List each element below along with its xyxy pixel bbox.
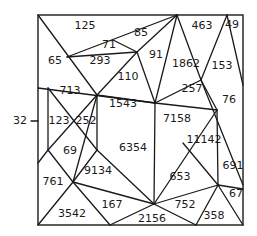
edge-line (154, 103, 155, 204)
region-label-7158: 7158 (163, 112, 191, 125)
edge-line (113, 40, 137, 52)
triangulation-diagram: 32 1257185652939111018624634915325776713… (0, 0, 257, 236)
region-label-49: 49 (225, 18, 239, 31)
region-label-71: 71 (102, 38, 116, 51)
region-label-91: 91 (149, 48, 163, 61)
region-label-123: 123 (49, 114, 70, 127)
region-label-752: 752 (175, 198, 196, 211)
region-label-1543: 1543 (109, 97, 137, 110)
region-label-9134: 9134 (84, 164, 112, 177)
edge-line (155, 103, 217, 110)
region-label-6354: 6354 (119, 141, 147, 154)
region-label-257: 257 (182, 82, 203, 95)
region-label-3542: 3542 (58, 207, 86, 220)
region-label-110: 110 (118, 70, 139, 83)
side-label-group: 32 (13, 114, 38, 127)
region-label-65: 65 (48, 54, 62, 67)
region-label-293: 293 (90, 54, 111, 67)
region-label-1862: 1862 (172, 57, 200, 70)
region-label-463: 463 (192, 19, 213, 32)
region-label-653: 653 (170, 170, 191, 183)
region-label-85: 85 (134, 26, 148, 39)
region-label-2156: 2156 (138, 212, 166, 225)
region-label-125: 125 (75, 19, 96, 32)
region-label-69: 69 (63, 144, 77, 157)
side-label: 32 (13, 114, 27, 127)
region-label-761: 761 (43, 175, 64, 188)
region-label-76: 76 (222, 93, 236, 106)
region-label-11142: 11142 (187, 133, 222, 146)
region-label-167: 167 (102, 198, 123, 211)
region-label-691: 691 (223, 159, 244, 172)
region-label-358: 358 (204, 209, 225, 222)
region-label-252: 252 (76, 114, 97, 127)
region-label-713: 713 (60, 84, 81, 97)
region-label-153: 153 (212, 59, 233, 72)
edge-line (38, 150, 48, 163)
region-label-67: 67 (229, 187, 243, 200)
